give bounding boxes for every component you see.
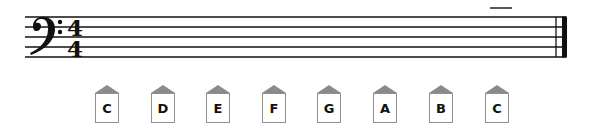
note-tile-row: C D E F G A B C <box>0 0 596 133</box>
tile-roof <box>262 85 286 93</box>
tile-roof <box>429 85 453 93</box>
tile-box: A <box>373 93 397 123</box>
tile-roof <box>317 85 341 93</box>
tile-label: B <box>436 101 446 116</box>
tile-roof <box>95 85 119 93</box>
note-tile-f[interactable]: F <box>262 85 286 123</box>
tile-label: A <box>380 101 390 116</box>
tile-label: E <box>214 101 223 116</box>
note-tile-b[interactable]: B <box>429 85 453 123</box>
tile-box: C <box>95 93 119 123</box>
tile-roof <box>485 85 509 93</box>
tile-label: C <box>102 101 112 116</box>
tile-roof <box>373 85 397 93</box>
tile-label: F <box>270 101 279 116</box>
tile-box: E <box>206 93 230 123</box>
tile-box: G <box>317 93 341 123</box>
tile-box: D <box>151 93 175 123</box>
tile-roof <box>151 85 175 93</box>
tile-box: F <box>262 93 286 123</box>
tile-box: B <box>429 93 453 123</box>
note-tile-c-low[interactable]: C <box>95 85 119 123</box>
note-tile-e[interactable]: E <box>206 85 230 123</box>
note-tile-a[interactable]: A <box>373 85 397 123</box>
note-tile-c-high[interactable]: C <box>485 85 509 123</box>
tile-roof <box>206 85 230 93</box>
note-tile-d[interactable]: D <box>151 85 175 123</box>
tile-label: G <box>324 101 335 116</box>
tile-box: C <box>485 93 509 123</box>
tile-label: C <box>492 101 502 116</box>
tile-label: D <box>158 101 169 116</box>
note-tile-g[interactable]: G <box>317 85 341 123</box>
